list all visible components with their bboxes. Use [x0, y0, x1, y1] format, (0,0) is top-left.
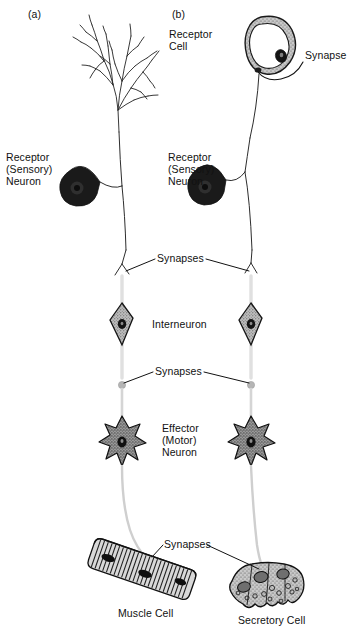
motor-axon-b	[251, 466, 262, 566]
effector-motor-neuron-label: Effector (Motor) Neuron	[162, 422, 199, 459]
effector-motor-neuron-a	[99, 416, 146, 466]
motor-axon-a	[122, 466, 148, 560]
diagram-canvas	[0, 0, 357, 630]
secretory-cell-label: Secretory Cell	[238, 614, 305, 626]
synapse-label: Synapse	[305, 49, 347, 61]
axon-b-upper	[226, 74, 259, 250]
interneuron-label: Interneuron	[152, 318, 207, 330]
receptor-sensory-neuron-soma-a	[60, 166, 100, 206]
interneuron-b	[239, 303, 262, 345]
synapses-middle-label: Synapses	[155, 365, 202, 377]
muscle-cell-label: Muscle Cell	[118, 607, 173, 619]
receptor-cell	[245, 16, 295, 74]
synaptic-terminal-b-upper	[245, 250, 257, 273]
secretory-cell	[230, 563, 304, 608]
receptor-sensory-neuron-label-a: Receptor (Sensory) Neuron	[6, 151, 52, 188]
synapses-upper-label: Synapses	[157, 252, 204, 264]
neural-pathway-figure: (a) (b) Receptor Cell Synapse Receptor (…	[0, 0, 357, 630]
panel-a-tag: (a)	[28, 8, 41, 20]
panel-b-tag: (b)	[172, 8, 185, 20]
effector-motor-neuron-b	[228, 416, 275, 466]
receptor-sensory-neuron-label-b: Receptor (Sensory) Neuron	[168, 151, 214, 188]
axon-a-upper	[100, 132, 126, 250]
synapses-lower-label: Synapses	[164, 538, 211, 550]
interneuron-a	[110, 303, 133, 345]
dendritic-tree	[73, 15, 159, 132]
receptor-cell-label: Receptor Cell	[169, 28, 212, 52]
synaptic-terminal-a-upper	[115, 250, 129, 275]
